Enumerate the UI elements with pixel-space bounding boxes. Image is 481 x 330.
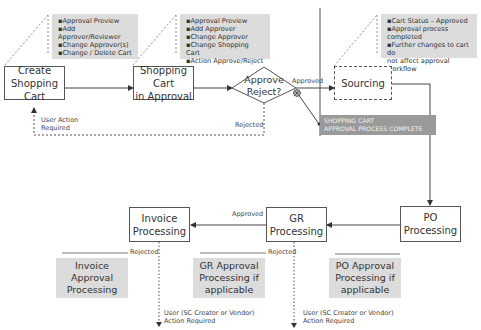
node-label: Invoice <box>133 212 186 225</box>
node-approve-reject-decision[interactable]: Approve Reject? <box>238 74 290 98</box>
node-label: Reject? <box>238 86 290 98</box>
node-po-processing[interactable]: PO Processing <box>400 206 461 242</box>
label-line: Action Required <box>303 317 394 325</box>
po-approval-processing-box: PO Approval Processing if applicable <box>329 258 401 298</box>
label-line: Required <box>41 124 78 132</box>
label-line: User (SC Creator or Vendor) <box>303 309 394 317</box>
box-line: applicable <box>335 284 395 296</box>
box-line: Processing <box>67 284 118 296</box>
label-user-action-required: User Action Required <box>41 116 78 132</box>
label-user-sc-action-required: User (SC Creator or Vendor) Action Requi… <box>164 309 255 325</box>
label-line: Action Required <box>164 317 255 325</box>
box-line: Invoice <box>67 260 118 272</box>
box-line: Approval <box>67 272 118 284</box>
box-line: Processing if <box>335 272 395 284</box>
node-label: Shopping Cart <box>5 77 64 103</box>
note-item: Approval process completed <box>387 25 471 41</box>
label-user-sc-action-required-2: User (SC Creator or Vendor) Action Requi… <box>303 309 394 325</box>
node-label: PO Processing <box>401 211 460 237</box>
event-star-icon <box>293 89 301 97</box>
note-sourcing: Cart Status – Approved Approval process … <box>381 14 477 58</box>
label-rejected-gr: Rejected <box>268 248 296 256</box>
node-label: Shopping Cart <box>134 64 193 90</box>
note-item: Add Approver <box>186 25 264 33</box>
label-rejected-top: Rejected <box>235 121 263 129</box>
banner-line: APPROVAL PROCESS COMPLETE <box>324 125 432 133</box>
note-item: Change Approver(s) <box>58 41 132 49</box>
node-label: Create <box>5 64 64 77</box>
label-rejected-invoice: Rejected <box>130 248 158 256</box>
label-line: User (SC Creator or Vendor) <box>164 309 255 317</box>
note-create-cart: Approval Preview Add Approver/Reviewer C… <box>52 14 138 59</box>
note-item: Action Approve/Reject <box>186 57 264 65</box>
gr-approval-processing-box: GR Approval Processing if applicable <box>193 258 265 298</box>
node-label: GR Processing <box>267 212 326 238</box>
note-item: Change / Delete Cart <box>58 49 132 57</box>
box-line: applicable <box>199 284 259 296</box>
note-item: Change Approver <box>186 33 264 41</box>
node-label: Processing <box>133 225 186 238</box>
banner-line: SHOPPING CART <box>324 117 432 125</box>
node-label: Sourcing <box>341 77 385 90</box>
node-shopping-cart-in-approval[interactable]: Shopping Cart in Approval <box>133 66 194 100</box>
note-cart-in-approval: Approval Preview Add Approver Change App… <box>180 14 270 59</box>
label-approved-top: Approved <box>292 77 323 85</box>
note-item: Cart Status – Approved <box>387 17 471 25</box>
note-item: Add Approver/Reviewer <box>58 25 132 41</box>
note-item: Approval Preview <box>186 17 264 25</box>
box-line: Processing if <box>199 272 259 284</box>
note-item: Change Shopping Cart <box>186 41 264 57</box>
node-invoice-processing[interactable]: Invoice Processing <box>129 207 190 242</box>
approval-complete-banner: SHOPPING CART APPROVAL PROCESS COMPLETE <box>320 115 436 135</box>
label-line: User Action <box>41 116 78 124</box>
node-label: Approve <box>238 74 290 86</box>
node-create-shopping-cart[interactable]: Create Shopping Cart <box>4 66 65 100</box>
note-item: Further changes to cart do <box>387 41 471 57</box>
invoice-approval-processing-box: Invoice Approval Processing <box>56 258 128 298</box>
note-item: Approval Preview <box>58 17 132 25</box>
node-gr-processing[interactable]: GR Processing <box>266 207 327 242</box>
box-line: GR Approval <box>199 260 259 272</box>
box-line: PO Approval <box>335 260 395 272</box>
note-continuation: not affect approval workflow <box>387 57 471 73</box>
node-sourcing[interactable]: Sourcing <box>334 66 392 100</box>
label-approved-bottom: Approved <box>232 210 263 218</box>
node-label: in Approval <box>134 90 193 103</box>
